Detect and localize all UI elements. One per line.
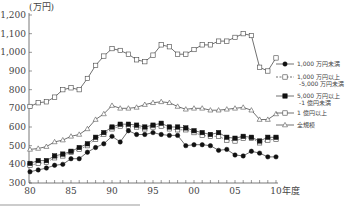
- y-tick-label: 500: [9, 141, 26, 151]
- y-tick-label: 1,000: [0, 47, 26, 57]
- line-chart: 3004005006007008009001,0001,1001,2008085…: [0, 0, 351, 206]
- series-3: [28, 31, 278, 108]
- legend-item-3: 1 億円以上: [276, 109, 327, 117]
- legend-label-line2: -5,000 万円未満: [299, 80, 344, 88]
- y-tick-label: 600: [9, 122, 26, 132]
- legend-item-4: 全規模: [276, 121, 315, 129]
- y-tick-label: 900: [9, 66, 26, 76]
- x-tick-label: 00: [188, 186, 200, 196]
- y-tick-label: 1,200: [0, 10, 26, 20]
- y-axis-unit-label: (万円): [29, 2, 54, 12]
- legend-label-line2: -1 億円未満: [299, 99, 331, 107]
- legend-item-2: 5,000 万円以上-1 億円未満: [276, 92, 340, 107]
- y-tick-label: 800: [9, 85, 26, 95]
- x-tick-label: 90: [106, 186, 118, 196]
- x-tick-label: 05: [229, 186, 241, 196]
- x-axis-suffix: 年度: [282, 185, 300, 196]
- y-tick-label: 400: [9, 159, 26, 169]
- legend-label: 1,000 万円未満: [297, 60, 340, 68]
- legend-item-0: 1,000 万円未満: [276, 60, 340, 68]
- legend-label: 1 億円以上: [297, 109, 327, 117]
- x-tick-label: 85: [65, 186, 77, 196]
- series-0: [28, 129, 278, 174]
- y-tick-label: 700: [9, 103, 26, 113]
- series-group: [28, 31, 279, 174]
- legend-label: 全規模: [297, 121, 315, 129]
- x-tick-label: 80: [24, 186, 36, 196]
- y-tick-label: 1,100: [0, 29, 26, 39]
- legend-item-1: 1,000 万円以上-5,000 万円未満: [276, 73, 344, 88]
- legend: 1,000 万円未満1,000 万円以上-5,000 万円未満5,000 万円以…: [276, 60, 344, 129]
- x-tick-label: 95: [147, 186, 159, 196]
- x-tick-label: 10: [270, 186, 282, 196]
